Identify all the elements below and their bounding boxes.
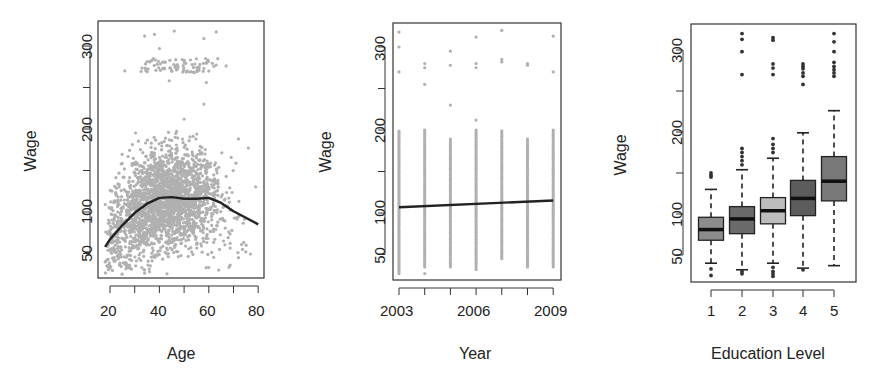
panel3-ytick-200: 200 xyxy=(668,120,685,145)
panel3-x-axis-label: Education Level xyxy=(711,345,825,363)
education-wage-boxplot-panel xyxy=(676,24,856,297)
panel1-xtick-20: 20 xyxy=(100,302,117,319)
panel1-xtick-80: 80 xyxy=(248,302,265,319)
panel3-ytick-100: 100 xyxy=(668,202,685,227)
panel1-ytick-50: 50 xyxy=(78,245,95,262)
panel2-ytick-50: 50 xyxy=(371,247,388,264)
boxplot-education-1 xyxy=(699,171,724,277)
boxplot-education-4 xyxy=(791,62,816,272)
panel1-xtick-40: 40 xyxy=(150,302,167,319)
panel3-ytick-300: 300 xyxy=(668,38,685,63)
panel2-ytick-200: 200 xyxy=(371,118,388,143)
panel3-ytick-50: 50 xyxy=(668,248,685,265)
panel3-xtick-2: 2 xyxy=(738,302,746,319)
panel1-ytick-200: 200 xyxy=(78,117,95,142)
panel3-xtick-4: 4 xyxy=(799,302,807,319)
boxplot-education-3 xyxy=(761,36,786,278)
panel3-xtick-3: 3 xyxy=(769,302,777,319)
panel2-y-axis-label: Wage xyxy=(317,131,335,172)
panel3-xtick-5: 5 xyxy=(830,302,838,319)
year-wage-scatter-panel xyxy=(378,23,561,295)
figure-canvas xyxy=(0,0,876,383)
panel2-ytick-300: 300 xyxy=(371,36,388,61)
year-scatter-points xyxy=(397,29,554,275)
boxplot-education-5 xyxy=(822,32,847,266)
age-wage-scatter-panel xyxy=(83,21,264,293)
panel3-xtick-1: 1 xyxy=(707,302,715,319)
panel3-y-axis-label: Wage xyxy=(612,134,630,175)
panel2-xtick-2009: 2009 xyxy=(534,302,567,319)
panel2-xtick-2003: 2003 xyxy=(380,302,413,319)
panel2-xtick-2006: 2006 xyxy=(457,302,490,319)
panel1-x-axis-label: Age xyxy=(167,345,195,363)
panel2-ytick-100: 100 xyxy=(371,200,388,225)
boxplot-education-2 xyxy=(730,32,755,276)
panel1-ytick-300: 300 xyxy=(78,34,95,59)
panel1-xtick-60: 60 xyxy=(199,302,216,319)
panel1-ytick-100: 100 xyxy=(78,199,95,224)
age-scatter-points xyxy=(104,29,258,275)
panel2-x-axis-label: Year xyxy=(459,345,491,363)
panel1-y-axis-label: Wage xyxy=(22,130,40,171)
